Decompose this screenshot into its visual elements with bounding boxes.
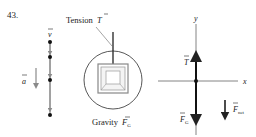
net-force-label: Fnet xyxy=(232,105,245,115)
acceleration-label: a xyxy=(22,77,26,86)
tension-pointer-line xyxy=(96,27,112,46)
gravity-label: Gravity FG xyxy=(92,117,131,128)
tension-label: Tension T xyxy=(66,15,103,25)
y-axis-label: y xyxy=(193,14,198,23)
fbd-tension-label: T xyxy=(184,58,189,67)
box-face xyxy=(106,71,120,84)
position-dot xyxy=(48,78,52,82)
diagram-canvas: 43. v a Tension T Gravity FG xyxy=(0,0,256,137)
fbd-gravity-label: FG xyxy=(179,115,189,125)
pictorial-representation: Tension T Gravity FG xyxy=(66,14,142,128)
velocity-label: v xyxy=(48,30,52,39)
x-axis-label: x xyxy=(242,77,247,86)
free-body-diagram: y x T FG Fnet xyxy=(158,14,247,135)
position-dot xyxy=(48,40,52,44)
problem-number: 43. xyxy=(7,10,18,20)
position-dot xyxy=(48,55,52,59)
position-dot xyxy=(48,113,52,117)
particle-dot xyxy=(194,79,198,83)
motion-diagram: v a xyxy=(22,29,53,117)
